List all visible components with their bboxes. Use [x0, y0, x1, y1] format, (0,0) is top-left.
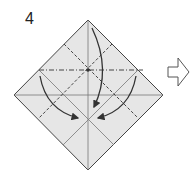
origami-diagram — [0, 0, 191, 181]
next-step-arrow-icon — [168, 58, 189, 86]
center-point — [86, 68, 90, 72]
